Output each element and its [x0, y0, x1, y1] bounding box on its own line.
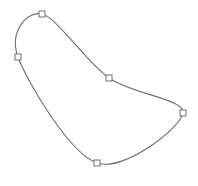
- curve-canvas[interactable]: [0, 0, 198, 186]
- control-point-handles: [15, 11, 186, 166]
- control-point-handle-p5[interactable]: [15, 54, 21, 60]
- control-point-handle-p1[interactable]: [39, 11, 45, 17]
- control-point-handle-p4[interactable]: [94, 160, 100, 166]
- control-point-handle-p3[interactable]: [180, 110, 186, 116]
- closed-spline-curve: [15, 14, 183, 165]
- control-point-handle-p2[interactable]: [106, 75, 112, 81]
